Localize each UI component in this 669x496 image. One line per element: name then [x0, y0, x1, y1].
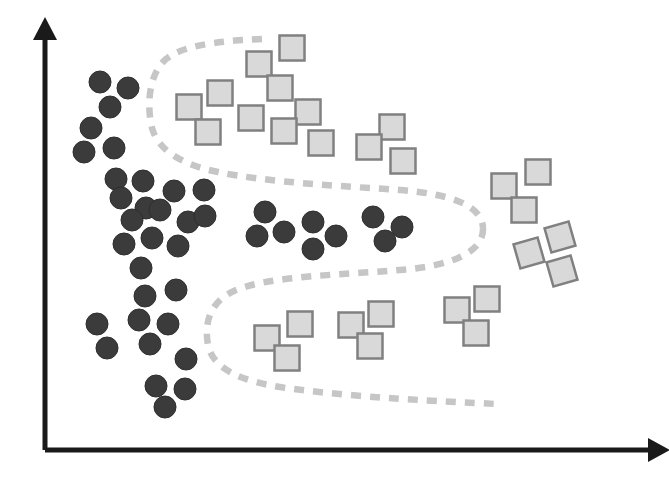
data-point-class-b [275, 346, 300, 371]
data-point-class-a [302, 211, 324, 233]
data-point-class-b [268, 76, 293, 101]
data-point-class-b [475, 287, 500, 312]
x-axis-arrow-icon [648, 438, 669, 462]
data-point-class-b [177, 95, 202, 120]
data-point-class-a [110, 187, 132, 209]
data-point-class-b [514, 238, 545, 269]
data-point-class-b [492, 174, 517, 199]
data-point-class-b [208, 81, 233, 106]
data-point-class-a [121, 209, 143, 231]
data-point-class-a [193, 179, 215, 201]
data-point-class-a [165, 279, 187, 301]
data-point-class-b [369, 302, 394, 327]
data-point-class-b [545, 222, 576, 253]
data-point-class-b [196, 120, 221, 145]
data-point-class-a [149, 199, 171, 221]
data-point-class-b [288, 312, 313, 337]
data-point-class-a [273, 221, 295, 243]
data-point-class-b [380, 115, 405, 140]
data-point-class-b [464, 321, 489, 346]
data-point-class-b [280, 36, 305, 61]
data-point-class-a [117, 77, 139, 99]
data-point-class-b [445, 298, 470, 323]
data-point-class-a [163, 180, 185, 202]
data-point-class-b [547, 256, 578, 287]
data-point-class-a [374, 230, 396, 252]
data-point-class-b [526, 160, 551, 185]
data-point-class-a [103, 137, 125, 159]
data-point-class-a [73, 141, 95, 163]
data-point-class-b [296, 100, 321, 125]
scatter-plot-figure [0, 0, 669, 496]
data-point-class-a [325, 225, 347, 247]
data-point-class-a [128, 309, 150, 331]
data-point-class-a [154, 396, 176, 418]
data-point-class-a [86, 313, 108, 335]
data-point-class-b [272, 119, 297, 144]
data-point-class-a [167, 235, 189, 257]
data-point-class-a [254, 201, 276, 223]
data-point-class-a [99, 96, 121, 118]
data-point-class-a [89, 71, 111, 93]
data-point-class-a [145, 375, 167, 397]
data-point-class-a [132, 170, 154, 192]
data-point-class-b [512, 198, 537, 223]
data-point-class-b [239, 106, 264, 131]
data-point-class-a [362, 206, 384, 228]
data-point-class-a [174, 378, 196, 400]
data-point-class-b [391, 149, 416, 174]
data-point-class-a [130, 257, 152, 279]
data-point-class-a [302, 238, 324, 260]
data-point-class-a [141, 227, 163, 249]
data-point-class-b [358, 334, 383, 359]
series-class-b-points [177, 36, 578, 371]
data-point-class-a [194, 205, 216, 227]
y-axis-arrow-icon [33, 17, 57, 40]
data-point-class-a [157, 313, 179, 335]
plot-canvas [0, 0, 669, 496]
data-point-class-a [105, 168, 127, 190]
data-point-class-a [113, 233, 135, 255]
data-point-class-a [246, 225, 268, 247]
data-point-class-b [357, 135, 382, 160]
data-point-class-b [309, 131, 334, 156]
data-point-class-a [80, 117, 102, 139]
data-point-class-a [175, 348, 197, 370]
data-point-class-a [134, 285, 156, 307]
data-point-class-a [139, 333, 161, 355]
data-point-class-a [96, 337, 118, 359]
data-point-class-b [247, 52, 272, 77]
